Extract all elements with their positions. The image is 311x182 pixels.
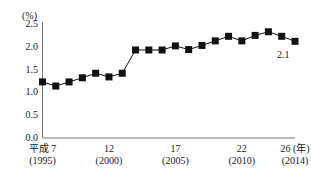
x-axis-tick-year: (2000) <box>96 155 123 167</box>
x-axis-tick-era: 26 (年) <box>280 143 309 155</box>
x-axis-tick-era: 22 <box>228 143 255 155</box>
x-axis-tick: 22(2010) <box>228 143 255 167</box>
x-axis-tick-era: 12 <box>96 143 123 155</box>
x-axis-tick: 平成 7(1995) <box>29 143 57 167</box>
x-axis-tick: 26 (年)(2014) <box>280 143 309 167</box>
chart-container: (%) 2.52.01.51.00.50.0 平成 7(1995)12(2000… <box>0 0 311 182</box>
x-axis-tick-year: (2010) <box>228 155 255 167</box>
x-axis-tick-year: (1995) <box>29 155 57 167</box>
x-axis-tick-era: 平成 7 <box>29 143 57 155</box>
x-axis-tick-year: (2014) <box>280 155 309 167</box>
x-axis-tick: 12(2000) <box>96 143 123 167</box>
data-point-value-label: 2.1 <box>277 50 290 60</box>
x-axis-tick-year: (2005) <box>162 155 189 167</box>
x-axis-tick-labels: 平成 7(1995)12(2000)17(2005)22(2010)26 (年)… <box>0 0 311 182</box>
x-axis-tick-era: 17 <box>162 143 189 155</box>
x-axis-tick: 17(2005) <box>162 143 189 167</box>
